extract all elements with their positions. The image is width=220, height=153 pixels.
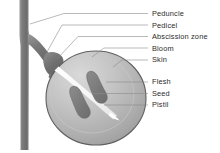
- label-bloom: Bloom: [152, 44, 174, 53]
- label-pistil: Pistil: [152, 100, 169, 109]
- label-pedicel: Pedicel: [152, 21, 177, 30]
- label-flesh: Flesh: [152, 77, 171, 86]
- berry-group: [46, 51, 146, 145]
- label-abscission-zone: Abscission zone: [152, 32, 208, 41]
- diagram-canvas: Peduncle Pedicel Abscission zone Bloom S…: [0, 0, 220, 153]
- peduncle-shape: [20, 0, 30, 150]
- label-skin: Skin: [152, 55, 167, 64]
- leader-line-peduncle: [30, 14, 148, 25]
- label-peduncle: Peduncle: [152, 9, 184, 18]
- labels-group: Peduncle Pedicel Abscission zone Bloom S…: [152, 9, 208, 109]
- label-seed: Seed: [152, 89, 170, 98]
- botanical-diagram: Peduncle Pedicel Abscission zone Bloom S…: [0, 0, 220, 153]
